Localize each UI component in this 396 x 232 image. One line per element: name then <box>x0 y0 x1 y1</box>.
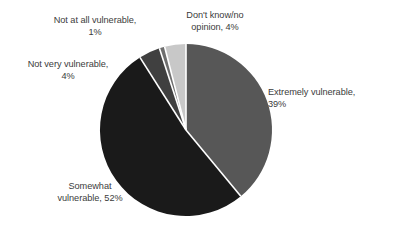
pie-label-not-at-all-vulnerable: Not at all vulnerable, 1% <box>24 14 166 39</box>
pie-label-extremely-vulnerable: Extremely vulnerable, 39% <box>268 86 394 111</box>
pie-label-somewhat-vulnerable: Somewhat vulnerable, 52% <box>22 180 158 205</box>
pie-label-not-very-vulnerable: Not very vulnerable, 4% <box>4 58 132 83</box>
pie-chart-figure: Not at all vulnerable, 1% Don't know/no … <box>0 0 396 232</box>
pie-label-dont-know-no-opinion: Don't know/no opinion, 4% <box>152 9 278 34</box>
